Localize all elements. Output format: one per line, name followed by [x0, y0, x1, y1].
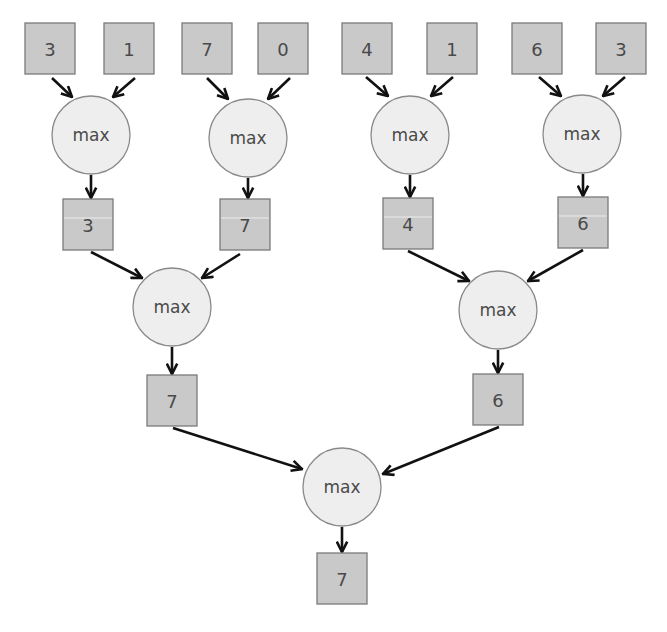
arrow-r1b-to-op2a [202, 254, 240, 278]
operator-label: max [391, 125, 428, 145]
arrow-in0-to-op1a [52, 78, 72, 97]
operator-label: max [479, 300, 516, 320]
value-box-r1d: 6 [558, 197, 608, 248]
value-label: 4 [402, 214, 413, 235]
value-box-in6: 6 [512, 23, 562, 74]
value-box-in7: 3 [596, 23, 646, 74]
arrow-in7-to-op1d [603, 77, 625, 96]
arrow-r2b-to-op3 [383, 427, 499, 474]
value-box-in5: 1 [427, 23, 477, 74]
max-reduction-tree-diagram: 31704163maxmaxmaxmax3746maxmax76max7 [0, 0, 667, 632]
operator-label: max [323, 477, 360, 497]
value-label: 3 [615, 39, 626, 60]
value-label: 7 [201, 39, 212, 60]
value-label: 6 [531, 39, 542, 60]
value-label: 7 [239, 215, 250, 236]
arrow-in3-to-op1b [268, 78, 290, 99]
arrow-in6-to-op1d [539, 77, 561, 96]
value-box-final: 7 [317, 553, 367, 604]
max-operator-op2a: max [133, 268, 211, 346]
arrow-r1d-to-op2b [528, 250, 583, 281]
arrow-in1-to-op1a [113, 78, 135, 97]
arrow-in2-to-op1b [207, 78, 228, 99]
value-box-in0: 3 [25, 23, 75, 74]
value-label: 6 [577, 213, 588, 234]
value-label: 1 [446, 39, 457, 60]
max-operator-op1b: max [209, 99, 287, 177]
value-box-r1b: 7 [220, 199, 270, 250]
operator-label: max [153, 297, 190, 317]
value-box-r1c: 4 [383, 198, 433, 249]
max-operator-op2b: max [459, 271, 537, 349]
value-label: 1 [123, 39, 134, 60]
value-box-in2: 7 [182, 23, 232, 74]
value-box-r1a: 3 [63, 199, 113, 250]
operator-label: max [72, 125, 109, 145]
value-label: 7 [166, 391, 177, 412]
value-box-in4: 4 [342, 23, 392, 74]
value-box-in3: 0 [258, 23, 308, 74]
value-box-in1: 1 [104, 23, 154, 74]
operator-label: max [563, 124, 600, 144]
max-operator-op1c: max [371, 96, 449, 174]
value-label: 4 [361, 39, 372, 60]
arrow-in4-to-op1c [366, 77, 388, 96]
arrow-in5-to-op1c [431, 77, 453, 96]
value-label: 7 [336, 569, 347, 590]
value-label: 0 [277, 39, 288, 60]
arrow-r1a-to-op2a [91, 252, 142, 278]
max-operator-op1d: max [543, 95, 621, 173]
value-box-r2a: 7 [147, 375, 197, 426]
nodes-layer: 31704163maxmaxmaxmax3746maxmax76max7 [25, 23, 646, 604]
value-label: 3 [44, 39, 55, 60]
arrow-r1c-to-op2b [408, 251, 469, 281]
value-label: 3 [82, 215, 93, 236]
arrow-r2a-to-op3 [173, 428, 302, 469]
max-operator-op3: max [303, 448, 381, 526]
value-label: 6 [492, 390, 503, 411]
value-box-r2b: 6 [473, 374, 523, 425]
max-operator-op1a: max [52, 96, 130, 174]
operator-label: max [229, 128, 266, 148]
